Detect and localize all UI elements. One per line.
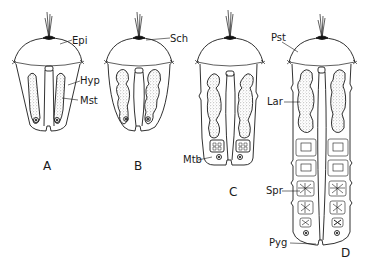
stage-c-drawing [195, 10, 265, 165]
stage-a-drawing [12, 12, 84, 131]
label-sch: Sch [170, 34, 188, 44]
label-pst: Pst [271, 33, 286, 43]
stage-label-a: A [43, 160, 51, 172]
label-epi: Epi [72, 36, 87, 46]
stage-label-d: D [341, 247, 350, 259]
label-hyp: Hyp [80, 76, 100, 86]
label-mst: Mst [80, 96, 98, 106]
stage-label-b: B [134, 160, 142, 172]
label-lar: Lar [267, 97, 283, 107]
label-mtb: Mtb [183, 155, 202, 165]
label-pyg: Pyg [269, 238, 287, 248]
stage-b-drawing [104, 12, 174, 131]
stage-label-c: C [229, 186, 237, 198]
label-spr: Spr [266, 186, 283, 196]
stage-d-drawing [282, 14, 357, 245]
